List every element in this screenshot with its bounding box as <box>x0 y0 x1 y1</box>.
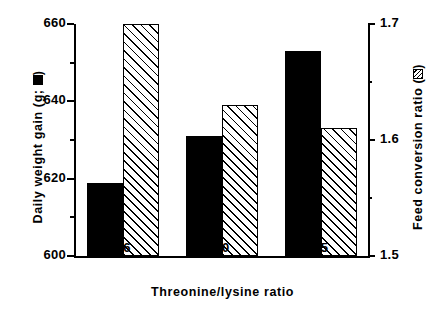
right-tick-label-1.7: 1.7 <box>380 15 440 30</box>
right-minor-tick-1.55 <box>368 197 372 199</box>
x-category-label-56: 56 <box>93 240 153 255</box>
right-tick-label-1.6: 1.6 <box>380 131 440 146</box>
bar-feed-conversion-ratio-56 <box>123 24 159 256</box>
left-tick-label-620: 620 <box>6 170 66 185</box>
right-tick-1.6 <box>368 139 375 141</box>
left-minor-tick-610 <box>70 216 74 218</box>
chart-figure: Daily weight gain (g; ) Feed conversion … <box>0 0 445 320</box>
plot-area: 600620640660 1.51.61.7 <box>74 24 370 256</box>
left-tick-label-600: 600 <box>6 247 66 262</box>
right-tick-label-1.5: 1.5 <box>380 247 440 262</box>
left-minor-tick-650 <box>70 62 74 64</box>
left-axis-line <box>74 24 76 256</box>
legend-hatched-square-icon <box>413 69 423 79</box>
left-tick-label-640: 640 <box>6 92 66 107</box>
right-minor-tick-1.65 <box>368 81 372 83</box>
left-tick-label-660: 660 <box>6 15 66 30</box>
right-axis-title-suffix: ) <box>411 64 425 69</box>
left-tick-620 <box>67 178 74 180</box>
left-tick-660 <box>67 23 74 25</box>
bottom-axis-line <box>74 256 370 258</box>
right-axis-title: Feed conversion ratio () <box>411 47 425 247</box>
x-category-label-65: 65 <box>291 240 351 255</box>
left-tick-600 <box>67 255 74 257</box>
right-axis-title-prefix: Feed conversion ratio ( <box>411 79 425 230</box>
bar-feed-conversion-ratio-60 <box>222 105 258 256</box>
left-tick-640 <box>67 100 74 102</box>
x-category-label-60: 60 <box>192 240 252 255</box>
bar-feed-conversion-ratio-65 <box>321 128 357 256</box>
left-minor-tick-630 <box>70 139 74 141</box>
bar-daily-weight-gain-60 <box>186 136 222 256</box>
left-axis-title-suffix: ) <box>31 71 45 76</box>
bar-daily-weight-gain-65 <box>285 51 321 256</box>
legend-solid-square-icon <box>33 75 43 85</box>
right-tick-1.5 <box>368 255 375 257</box>
left-axis-title: Daily weight gain (g; ) <box>31 47 45 247</box>
x-axis-title: Threonine/lysine ratio <box>0 285 445 299</box>
right-tick-1.7 <box>368 23 375 25</box>
